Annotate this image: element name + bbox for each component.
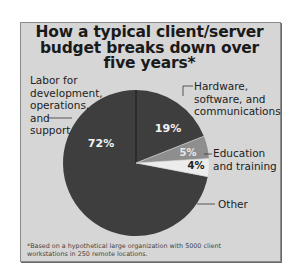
label-labor-line: Labor for — [30, 74, 103, 87]
pie-chart: 72% 19% 5% 4% — [0, 0, 296, 275]
value-other: 4% — [188, 160, 205, 171]
footnote: *Based on a hypothetical large organizat… — [27, 242, 221, 258]
value-labor: 72% — [88, 137, 114, 150]
label-education: Education and training — [213, 147, 277, 172]
label-hardware-line: software, and — [194, 93, 281, 106]
label-hardware-line: communications — [194, 105, 281, 118]
label-labor-line: operations, — [30, 99, 103, 112]
label-hardware-line: Hardware, — [194, 80, 281, 93]
label-labor-line: and — [30, 112, 103, 125]
label-hardware: Hardware, software, and communications — [194, 80, 281, 118]
footnote-line: *Based on a hypothetical large organizat… — [27, 242, 221, 250]
label-labor-line: development, — [30, 87, 103, 100]
footnote-line: workstations in 250 remote locations. — [27, 250, 221, 258]
label-education-line: Education — [213, 147, 277, 160]
label-labor: Labor for development, operations, and s… — [30, 74, 103, 137]
value-hardware: 19% — [155, 122, 181, 135]
label-education-line: and training — [213, 160, 277, 173]
label-labor-line: support — [30, 124, 103, 137]
label-other: Other — [218, 198, 248, 211]
leader-hardware — [183, 86, 193, 96]
value-education: 5% — [180, 147, 197, 158]
